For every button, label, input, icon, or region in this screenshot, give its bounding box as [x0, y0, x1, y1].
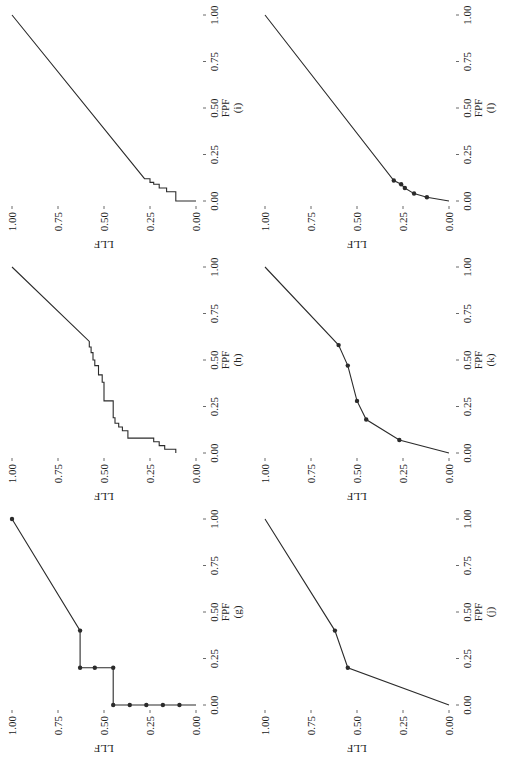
y-tick-label: 0.00 [443, 212, 455, 232]
data-point-marker [336, 343, 340, 347]
y-tick-label: 0.50 [351, 212, 363, 232]
chart-svg-i: 0.000.250.500.751.000.000.250.500.751.00… [0, 1, 253, 253]
panel-label: (j) [484, 606, 497, 617]
data-point-marker [364, 417, 368, 421]
y-tick-label: 0.75 [305, 212, 317, 232]
data-point-marker [78, 666, 82, 670]
panel-label: (k) [484, 353, 497, 366]
chart-svg-g: 0.000.250.500.751.000.000.250.500.751.00… [0, 505, 253, 757]
roc-curve [265, 15, 449, 201]
y-tick-label: 0.50 [98, 464, 110, 484]
x-axis-title: FPF [472, 603, 484, 621]
x-tick-label: 0.00 [461, 443, 473, 463]
x-axis-title: FPF [472, 351, 484, 369]
x-tick-label: 1.00 [461, 509, 473, 529]
x-tick-label: 1.00 [208, 257, 220, 277]
x-tick-label: 0.00 [208, 191, 220, 211]
roc-curve [265, 519, 449, 705]
y-tick-label: 1.00 [259, 716, 271, 736]
y-axis-title: LLF [347, 239, 367, 251]
y-tick-label: 0.25 [397, 716, 409, 736]
x-tick-label: 0.75 [461, 303, 473, 323]
y-tick-label: 1.00 [6, 212, 18, 232]
data-point-marker [111, 703, 115, 707]
data-point-marker [397, 438, 401, 442]
x-tick-label: 0.00 [461, 695, 473, 715]
x-tick-label: 0.25 [208, 648, 220, 668]
x-tick-label: 1.00 [208, 5, 220, 25]
y-tick-label: 1.00 [6, 716, 18, 736]
y-tick-label: 1.00 [259, 212, 271, 232]
data-point-marker [333, 628, 337, 632]
y-tick-label: 0.00 [190, 212, 202, 232]
roc-curve [265, 267, 449, 453]
y-axis-title: LLF [94, 743, 114, 755]
y-axis-title: LLF [94, 491, 114, 503]
x-tick-label: 0.25 [461, 144, 473, 164]
x-axis-title: FPF [219, 99, 231, 117]
x-tick-label: 1.00 [461, 5, 473, 25]
chart-panel-k: 0.000.250.500.751.000.000.250.500.751.00… [253, 253, 506, 505]
x-tick-label: 0.00 [461, 191, 473, 211]
panel-label: (l) [484, 102, 497, 113]
y-tick-label: 0.00 [443, 464, 455, 484]
y-axis-title: LLF [347, 743, 367, 755]
y-tick-label: 0.00 [190, 464, 202, 484]
y-axis-title: LLF [347, 491, 367, 503]
data-point-marker [425, 195, 429, 199]
rotated-figure: 0.000.250.500.751.000.000.250.500.751.00… [0, 0, 507, 757]
x-tick-label: 0.75 [208, 303, 220, 323]
roc-curve [12, 519, 196, 705]
data-point-marker [111, 666, 115, 670]
chart-panel-h: 0.000.250.500.751.000.000.250.500.751.00… [0, 253, 253, 505]
x-tick-label: 0.25 [208, 396, 220, 416]
data-point-marker [78, 628, 82, 632]
panel-label: (h) [231, 353, 244, 366]
roc-curve [12, 267, 176, 453]
chart-panel-g: 0.000.250.500.751.000.000.250.500.751.00… [0, 505, 253, 757]
y-tick-label: 0.75 [52, 716, 64, 736]
y-tick-label: 1.00 [259, 464, 271, 484]
y-tick-label: 0.75 [52, 212, 64, 232]
panel-label: (g) [231, 605, 244, 618]
x-tick-label: 0.00 [208, 443, 220, 463]
y-tick-label: 0.25 [144, 716, 156, 736]
chart-panel-i: 0.000.250.500.751.000.000.250.500.751.00… [0, 1, 253, 253]
data-point-marker [392, 178, 396, 182]
chart-svg-l: 0.000.250.500.751.000.000.250.500.751.00… [253, 1, 506, 253]
y-tick-label: 0.50 [351, 716, 363, 736]
y-axis-title: LLF [94, 239, 114, 251]
data-point-marker [177, 703, 181, 707]
chart-svg-j: 0.000.250.500.751.000.000.250.500.751.00… [253, 505, 506, 757]
data-point-marker [403, 186, 407, 190]
data-point-marker [144, 703, 148, 707]
roc-curve [12, 15, 196, 201]
x-tick-label: 0.75 [461, 51, 473, 71]
y-tick-label: 0.50 [98, 716, 110, 736]
data-point-marker [10, 517, 14, 521]
x-tick-label: 0.75 [461, 555, 473, 575]
x-tick-label: 0.75 [208, 51, 220, 71]
x-tick-label: 1.00 [461, 257, 473, 277]
x-tick-label: 0.00 [208, 695, 220, 715]
y-tick-label: 0.50 [98, 212, 110, 232]
y-tick-label: 0.00 [443, 716, 455, 736]
data-point-marker [412, 191, 416, 195]
panel-label: (i) [231, 102, 244, 113]
chart-panel-j: 0.000.250.500.751.000.000.250.500.751.00… [253, 505, 506, 757]
chart-panel-l: 0.000.250.500.751.000.000.250.500.751.00… [253, 1, 506, 253]
y-tick-label: 1.00 [6, 464, 18, 484]
data-point-marker [128, 703, 132, 707]
y-tick-label: 0.00 [190, 716, 202, 736]
data-point-marker [399, 182, 403, 186]
x-axis-title: FPF [219, 351, 231, 369]
chart-svg-h: 0.000.250.500.751.000.000.250.500.751.00… [0, 253, 253, 505]
x-axis-title: FPF [219, 603, 231, 621]
data-point-marker [93, 666, 97, 670]
y-tick-label: 0.75 [305, 716, 317, 736]
data-point-marker [346, 666, 350, 670]
x-tick-label: 0.25 [461, 396, 473, 416]
x-tick-label: 0.75 [208, 555, 220, 575]
y-tick-label: 0.25 [397, 212, 409, 232]
y-tick-label: 0.75 [305, 464, 317, 484]
